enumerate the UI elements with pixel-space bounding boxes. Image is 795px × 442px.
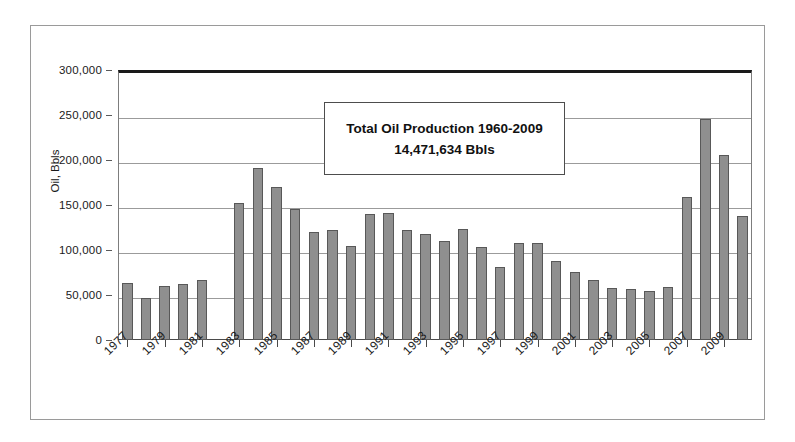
annotation-line-2: 14,471,634 Bbls <box>394 139 495 160</box>
chart-figure: Oil, Bbls 050,000100,000150,000200,00025… <box>0 0 795 442</box>
y-tick-label: 300,000 <box>36 64 102 76</box>
bar <box>514 243 524 340</box>
bar <box>327 230 337 340</box>
bar <box>234 203 244 340</box>
y-tick-label: 150,000 <box>36 199 102 211</box>
y-tick-label: 0 <box>36 334 102 346</box>
bar <box>271 187 281 340</box>
y-tick-mark <box>106 115 112 116</box>
bar <box>682 197 692 340</box>
y-tick-mark <box>106 70 112 71</box>
bar <box>309 232 319 340</box>
bar <box>290 209 300 340</box>
y-tick-mark <box>106 250 112 251</box>
annotation-line-1: Total Oil Production 1960-2009 <box>346 118 542 139</box>
bar <box>141 298 151 340</box>
bar <box>495 267 505 340</box>
bar <box>719 155 729 340</box>
y-tick-label: 200,000 <box>36 154 102 166</box>
y-axis: 050,000100,000150,000200,000250,000300,0… <box>40 60 112 350</box>
bar <box>420 234 430 340</box>
bar <box>551 261 561 340</box>
y-tick-mark <box>106 295 112 296</box>
bar <box>253 168 263 340</box>
bar <box>700 119 710 340</box>
y-tick-label: 50,000 <box>36 289 102 301</box>
bar <box>588 280 598 340</box>
x-axis-labels: 1977197919811983198519871989199119931995… <box>118 348 778 408</box>
bar <box>402 230 412 340</box>
bar <box>663 287 673 340</box>
y-tick-label: 250,000 <box>36 109 102 121</box>
bar <box>346 246 356 340</box>
y-tick-mark <box>106 205 112 206</box>
y-tick-label: 100,000 <box>36 244 102 256</box>
bar <box>737 216 747 340</box>
bar <box>626 289 636 340</box>
annotation-textbox: Total Oil Production 1960-2009 14,471,63… <box>324 102 565 175</box>
y-tick-mark <box>106 160 112 161</box>
bar <box>178 284 188 340</box>
bar <box>532 243 542 340</box>
bar <box>476 247 486 340</box>
bar <box>458 229 468 340</box>
bar <box>365 214 375 340</box>
bar <box>383 213 393 340</box>
bar <box>439 241 449 340</box>
